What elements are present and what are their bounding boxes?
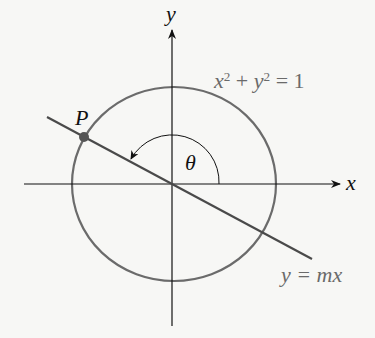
point-p-marker [79, 132, 89, 142]
y-axis-label: y [166, 3, 176, 25]
x-axis-label: x [346, 172, 356, 194]
point-p-label: P [75, 107, 88, 129]
theta-label: θ [185, 152, 196, 174]
angle-theta-arc [131, 135, 219, 184]
unit-circle-diagram: y x x2 + y2 = 1 P θ y = mx [0, 0, 375, 338]
line-equation-label: y = mx [281, 264, 342, 286]
circle-equation-label: x2 + y2 = 1 [214, 70, 305, 92]
